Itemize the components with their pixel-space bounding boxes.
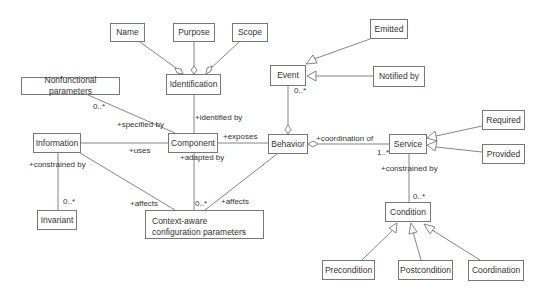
- class-context-aware-configuration-parameters[interactable]: Context-aware configuration parameters: [145, 210, 264, 239]
- multiplicity-nonfunctional: 0..*: [93, 102, 105, 112]
- class-notified-label: Notified by: [379, 71, 419, 82]
- class-provided[interactable]: Provided: [482, 144, 525, 164]
- role-constrained-by-information: +constrained by: [29, 160, 86, 170]
- class-behavior[interactable]: Behavior: [268, 134, 308, 154]
- class-name[interactable]: Name: [110, 23, 145, 42]
- class-coordination[interactable]: Coordination: [468, 260, 524, 281]
- role-constrained-by-service: +constrained by: [381, 164, 438, 174]
- class-event-label: Event: [277, 70, 299, 81]
- class-required[interactable]: Required: [482, 110, 525, 130]
- multiplicity-event: 0..*: [294, 86, 306, 96]
- class-emitted[interactable]: Emitted: [370, 19, 408, 39]
- class-scope-label: Scope: [238, 27, 262, 38]
- class-behavior-label: Behavior: [271, 139, 305, 150]
- class-postcondition-label: Postcondition: [400, 265, 451, 276]
- class-coordination-label: Coordination: [472, 265, 520, 276]
- class-required-label: Required: [486, 115, 521, 126]
- class-condition[interactable]: Condition: [385, 202, 431, 222]
- class-component[interactable]: Component: [168, 133, 218, 153]
- class-component-label: Component: [171, 138, 215, 149]
- class-postcondition[interactable]: Postcondition: [398, 260, 453, 280]
- role-specified-by: +specified by: [117, 120, 164, 130]
- class-identification-label: Identification: [170, 79, 218, 90]
- role-adapted-by: +adapted by: [180, 153, 224, 163]
- class-condition-label: Condition: [390, 207, 426, 218]
- class-notified-by[interactable]: Notified by: [373, 66, 425, 87]
- class-event[interactable]: Event: [270, 65, 306, 86]
- role-identified-by: +identified by: [195, 113, 242, 123]
- class-purpose[interactable]: Purpose: [173, 23, 215, 42]
- class-information[interactable]: Information: [33, 133, 81, 153]
- class-emitted-label: Emitted: [375, 24, 404, 35]
- class-purpose-label: Purpose: [178, 27, 210, 38]
- role-affects-behavior: +affects: [221, 197, 249, 207]
- class-context-label: Context-aware configuration parameters: [152, 216, 246, 237]
- multiplicity-invariant: 0..*: [63, 197, 75, 207]
- role-coordination-of: +coordination of: [316, 134, 373, 144]
- multiplicity-condition: 0..*: [413, 192, 425, 202]
- class-precondition-label: Precondition: [325, 265, 372, 276]
- class-service-label: Service: [394, 139, 422, 150]
- class-nonfunctional-parameters[interactable]: Nonfunctional parameters: [21, 77, 120, 95]
- multiplicity-context: 0..*: [195, 199, 207, 209]
- class-scope[interactable]: Scope: [232, 23, 268, 42]
- class-invariant[interactable]: Invariant: [37, 210, 77, 230]
- role-affects-information: +affects: [130, 199, 158, 209]
- class-provided-label: Provided: [487, 149, 521, 160]
- class-precondition[interactable]: Precondition: [322, 260, 375, 280]
- class-service[interactable]: Service: [389, 134, 427, 154]
- class-name-label: Name: [116, 27, 139, 38]
- class-identification[interactable]: Identification: [166, 74, 221, 95]
- class-nonfunctional-label: Nonfunctional parameters: [25, 75, 116, 97]
- class-invariant-label: Invariant: [41, 215, 74, 226]
- class-information-label: Information: [36, 138, 79, 149]
- role-exposes: +exposes: [223, 132, 257, 142]
- multiplicity-service: 1..*: [377, 148, 389, 158]
- role-uses: +uses: [129, 146, 151, 156]
